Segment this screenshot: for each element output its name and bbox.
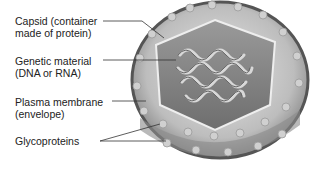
label-membrane-line1: Plasma membrane: [15, 96, 103, 108]
label-glyco-line1: Glycoproteins: [15, 135, 79, 147]
label-capsid: Capsid (container made of protein): [15, 15, 97, 39]
label-membrane-line2: (envelope): [15, 108, 103, 120]
label-genetic-material: Genetic material (DNA or RNA): [15, 55, 91, 79]
label-genetic-line1: Genetic material: [15, 55, 91, 67]
label-plasma-membrane: Plasma membrane (envelope): [15, 96, 103, 120]
label-glycoproteins: Glycoproteins: [15, 135, 79, 147]
label-capsid-line2: made of protein): [15, 27, 97, 39]
label-genetic-line2: (DNA or RNA): [15, 67, 91, 79]
label-capsid-line1: Capsid (container: [15, 15, 97, 27]
